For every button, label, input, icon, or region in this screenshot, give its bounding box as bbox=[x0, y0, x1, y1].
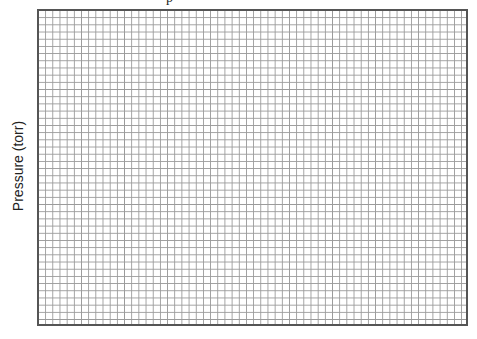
y-axis-label: Pressure (torr) bbox=[10, 111, 26, 221]
chart-title-fragment: p bbox=[166, 0, 173, 5]
graph-paper-plot-area bbox=[37, 9, 468, 326]
